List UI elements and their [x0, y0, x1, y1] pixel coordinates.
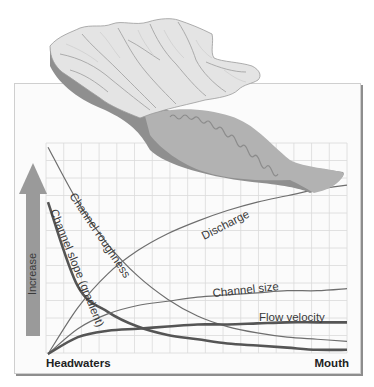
- curve-discharge: [48, 185, 347, 354]
- label-flow-velocity: Flow velocity: [259, 311, 325, 323]
- x-end-label: Mouth: [315, 357, 349, 369]
- arrow-up-icon: Increase: [19, 163, 47, 336]
- x-start-label: Headwaters: [46, 357, 111, 369]
- figure: Channel roughness Channel slope (gradien…: [0, 0, 374, 387]
- terrain-relief-map-icon: [50, 19, 344, 193]
- arrow-label: Increase: [26, 253, 38, 295]
